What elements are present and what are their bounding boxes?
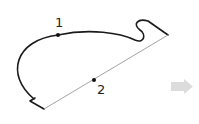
point-1-marker (56, 33, 60, 37)
arrow-right-icon (171, 79, 193, 94)
chord-line (44, 35, 168, 109)
point-2-label: 2 (97, 82, 105, 97)
diagram-canvas: 1 2 (0, 0, 199, 124)
point-1-label: 1 (55, 15, 63, 30)
curve-path (18, 20, 168, 109)
point-2-marker (92, 78, 96, 82)
next-arrow-button[interactable] (171, 79, 193, 94)
